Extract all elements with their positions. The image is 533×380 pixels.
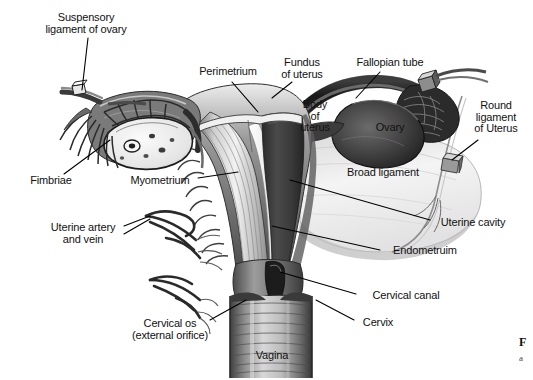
label-perimetrium: Perimetrium bbox=[186, 66, 270, 78]
label-uterine-cavity: Uterine cavity bbox=[428, 217, 518, 229]
label-fundus-of-uterus: Fundus of uterus bbox=[268, 57, 336, 80]
label-uterine-artery-and-vein: Uterine artery and vein bbox=[36, 222, 130, 245]
anatomy-illustration bbox=[0, 0, 533, 380]
suspensory-ligament-cut-end bbox=[72, 80, 87, 95]
left-fallopian-tube-and-ovary bbox=[60, 80, 203, 169]
label-fallopian-tube: Fallopian tube bbox=[340, 57, 440, 69]
label-vagina: Vagina bbox=[244, 350, 300, 362]
label-fimbriae: Fimbriae bbox=[18, 175, 84, 187]
label-round-ligament-of-uterus: Round ligament of Uterus bbox=[463, 100, 529, 135]
label-cervical-canal: Cervical canal bbox=[362, 290, 450, 302]
label-suspensory-ligament-of-ovary: Suspensory ligament of ovary bbox=[26, 12, 146, 35]
label-ovary: Ovary bbox=[364, 122, 416, 134]
label-myometrium: Myometrium bbox=[118, 175, 202, 187]
label-endometruim: Endometruim bbox=[382, 245, 468, 257]
anatomy-figure: Suspensory ligament of ovary Perimetrium… bbox=[0, 0, 533, 380]
label-body-of-uterus: Body of uterus bbox=[291, 99, 339, 134]
caption-fragment-line2: a bbox=[519, 353, 533, 364]
label-cervical-os: Cervical os (external orifice) bbox=[118, 318, 222, 341]
uterine-artery-and-vein-vessels bbox=[146, 212, 200, 319]
round-ligament-marker bbox=[441, 153, 463, 173]
label-broad-ligament: Broad ligament bbox=[334, 167, 432, 179]
caption-fragment-line1: F bbox=[519, 336, 533, 349]
caption-fragment: F a bbox=[519, 336, 533, 376]
label-cervix: Cervix bbox=[356, 317, 400, 329]
